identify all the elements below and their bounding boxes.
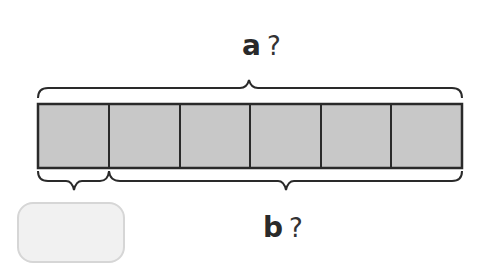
question-mark: ?: [289, 213, 303, 243]
variable-b: b: [263, 211, 283, 244]
tape-bar: [38, 104, 462, 168]
question-mark: ?: [267, 31, 281, 61]
top-brace: [38, 80, 462, 98]
variable-a: a: [242, 29, 261, 62]
bottom-brace-remaining-segments: [109, 171, 462, 190]
bottom-brace-first-segment: [38, 171, 109, 190]
top-label: a?: [242, 32, 281, 60]
answer-box[interactable]: [17, 202, 125, 263]
bottom-label: b?: [263, 214, 303, 242]
